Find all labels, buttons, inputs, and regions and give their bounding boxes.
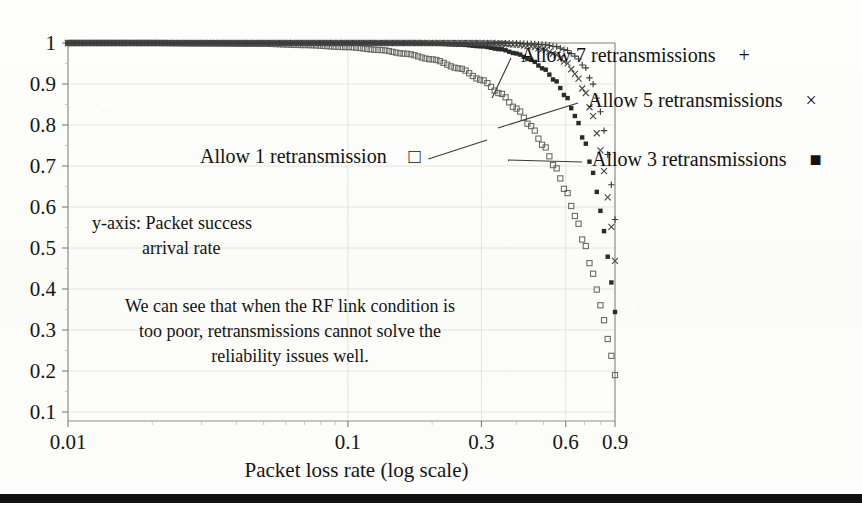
data-point xyxy=(448,64,453,69)
y-tick-label: 1 xyxy=(46,31,57,55)
y-tick-label: 0.8 xyxy=(30,113,56,137)
data-point xyxy=(613,310,617,314)
y-tick-label: 0.9 xyxy=(30,72,56,96)
data-point xyxy=(587,159,591,163)
y-tick-label: 0.1 xyxy=(30,400,56,424)
conclusion-line-2: too poor, retransmissions cannot solve t… xyxy=(139,321,441,341)
callout-leader-1 xyxy=(492,58,511,98)
y-axis-note-line-2: arrival rate xyxy=(142,238,220,258)
data-point xyxy=(441,60,446,65)
x-axis-title: Packet loss rate (log scale) xyxy=(245,458,469,482)
data-point xyxy=(579,85,585,91)
data-point xyxy=(605,194,611,200)
x-tick-label: 0.9 xyxy=(602,430,628,454)
data-point xyxy=(554,166,559,171)
data-point xyxy=(587,261,592,266)
legend-label-4: Allow 1 retransmission xyxy=(200,145,387,167)
conclusion-line-3: reliability issues well. xyxy=(211,346,368,366)
data-point xyxy=(565,96,569,100)
data-point xyxy=(606,255,610,259)
chart-svg: 10.90.80.70.60.50.40.30.20.10.010.10.30.… xyxy=(0,0,862,506)
data-point xyxy=(609,280,613,284)
data-point xyxy=(569,106,573,110)
data-point xyxy=(569,203,574,208)
data-point xyxy=(558,176,563,181)
legend-label-2: Allow 5 retransmissions xyxy=(588,89,783,111)
y-tick-label: 0.6 xyxy=(30,195,56,219)
data-point xyxy=(488,84,493,89)
x-tick-label: 0.01 xyxy=(50,430,87,454)
data-point xyxy=(591,271,596,276)
data-point xyxy=(612,216,618,222)
data-point xyxy=(608,224,614,230)
series-plus xyxy=(65,40,618,223)
data-point xyxy=(572,213,577,218)
data-point xyxy=(375,47,380,52)
data-point xyxy=(576,121,580,125)
data-point xyxy=(605,336,610,341)
data-point xyxy=(547,72,551,76)
legend-marker-4: □ xyxy=(408,145,420,167)
data-point xyxy=(590,113,596,119)
legend-marker-2: × xyxy=(806,89,817,111)
data-point xyxy=(580,237,585,242)
conclusion-line-1: We can see that when the RF link conditi… xyxy=(125,296,455,316)
data-point xyxy=(601,318,606,323)
data-point xyxy=(584,141,588,145)
legend-marker-1: + xyxy=(739,44,750,66)
data-point xyxy=(547,154,552,159)
data-point xyxy=(601,127,607,133)
data-point xyxy=(576,221,581,226)
data-point xyxy=(594,287,599,292)
y-tick-label: 0.3 xyxy=(30,318,56,342)
data-point xyxy=(580,135,584,139)
data-point xyxy=(550,163,555,168)
figure-container: 10.90.80.70.60.50.40.30.20.10.010.10.30.… xyxy=(0,0,862,506)
callout-leader-3 xyxy=(508,160,582,162)
data-point xyxy=(602,229,606,233)
data-point xyxy=(598,209,602,213)
data-point xyxy=(595,190,599,194)
data-point xyxy=(586,75,592,81)
series-filled-square xyxy=(66,41,617,314)
y-axis-note-line-1: y-axis: Packet success xyxy=(92,213,252,233)
x-tick-label: 0.3 xyxy=(468,430,494,454)
data-point xyxy=(594,130,600,136)
data-point xyxy=(591,171,595,175)
y-tick-label: 0.5 xyxy=(30,236,56,260)
data-point xyxy=(590,81,596,87)
data-point xyxy=(609,353,614,358)
legend-label-1: Allow 7 retransmissions xyxy=(521,44,716,66)
y-tick-label: 0.2 xyxy=(30,359,56,383)
data-point xyxy=(554,79,558,83)
data-point xyxy=(572,71,578,77)
data-point xyxy=(445,62,450,67)
data-point xyxy=(598,303,603,308)
callout-leader-4 xyxy=(428,140,487,159)
data-point xyxy=(573,114,577,118)
data-point xyxy=(568,66,574,72)
x-tick-label: 0.1 xyxy=(335,430,361,454)
data-point xyxy=(576,76,582,82)
bottom-rule xyxy=(0,494,862,503)
data-point xyxy=(503,95,508,100)
data-point xyxy=(558,86,562,90)
y-tick-label: 0.4 xyxy=(30,277,57,301)
x-tick-label: 0.6 xyxy=(553,430,579,454)
legend-marker-3: ■ xyxy=(810,148,822,170)
data-point xyxy=(544,68,548,72)
data-point xyxy=(536,136,541,141)
legend-label-3: Allow 3 retransmissions xyxy=(592,148,787,170)
data-point xyxy=(608,182,614,188)
y-tick-label: 0.7 xyxy=(30,154,56,178)
